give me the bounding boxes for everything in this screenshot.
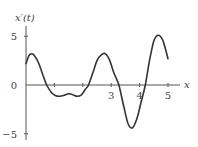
x-tick-label: 3 bbox=[108, 90, 114, 101]
y-tick-label: 0 bbox=[11, 80, 17, 91]
derivative-curve bbox=[26, 35, 168, 128]
y-ticks: 50−5 bbox=[2, 31, 28, 140]
y-tick-label: −5 bbox=[2, 129, 17, 140]
x-ticks: 345 bbox=[54, 83, 171, 101]
y-axis-label: x′(t) bbox=[15, 12, 35, 23]
x-tick-label: 5 bbox=[165, 90, 171, 101]
chart: 345 50−5 x x′(t) bbox=[0, 0, 198, 147]
x-axis-label: x bbox=[184, 79, 190, 90]
y-tick-label: 5 bbox=[11, 31, 17, 42]
axes: 345 50−5 x x′(t) bbox=[2, 12, 190, 140]
